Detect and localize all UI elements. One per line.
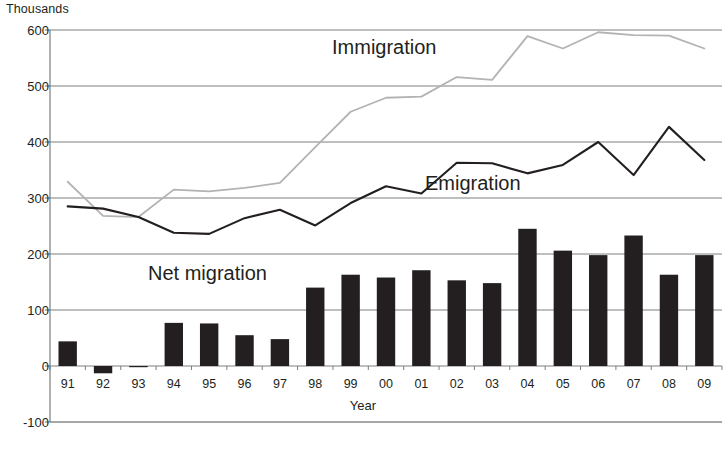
x-tick-label: 06 xyxy=(591,377,605,391)
net-migration-bar xyxy=(518,229,536,366)
x-tick-label: 02 xyxy=(450,377,464,391)
series-label-emigration: Emigration xyxy=(425,172,521,195)
net-migration-bar xyxy=(200,323,218,366)
migration-chart: Thousands 6005004003002001000-100 919293… xyxy=(0,0,726,451)
y-tick-label: 200 xyxy=(5,247,49,262)
net-migration-bar xyxy=(554,251,572,366)
x-tick-label: 91 xyxy=(61,377,75,391)
x-tick-label: 97 xyxy=(273,377,287,391)
x-tick-label: 96 xyxy=(238,377,252,391)
x-tick-label: 00 xyxy=(379,377,393,391)
y-tick-label: 600 xyxy=(5,23,49,38)
net-migration-bar xyxy=(235,335,253,366)
x-tick-label: 04 xyxy=(521,377,535,391)
y-tick-label: -100 xyxy=(5,415,49,430)
net-migration-bar xyxy=(660,275,678,366)
x-axis-title: Year xyxy=(0,398,726,413)
net-migration-bar xyxy=(58,341,76,366)
net-migration-bar xyxy=(165,323,183,366)
y-axis-ticks: 6005004003002001000-100 xyxy=(0,0,49,451)
net-migration-bar xyxy=(589,255,607,366)
net-migration-bars xyxy=(58,229,713,373)
net-migration-bar xyxy=(377,278,395,366)
net-migration-bar xyxy=(412,270,430,366)
migration-lines xyxy=(68,32,705,234)
series-line-emigration xyxy=(68,127,705,234)
net-migration-bar xyxy=(306,288,324,366)
y-tick-label: 0 xyxy=(5,359,49,374)
x-tick-label: 94 xyxy=(167,377,181,391)
net-migration-bar xyxy=(483,283,501,366)
net-migration-bar xyxy=(129,366,147,367)
y-tick-label: 500 xyxy=(5,79,49,94)
x-tick-label: 99 xyxy=(344,377,358,391)
y-tick-label: 100 xyxy=(5,303,49,318)
y-tick-label: 400 xyxy=(5,135,49,150)
x-tick-label: 95 xyxy=(202,377,216,391)
x-tick-label: 05 xyxy=(556,377,570,391)
net-migration-bar xyxy=(271,339,289,366)
net-migration-bar xyxy=(341,275,359,366)
series-line-immigration xyxy=(68,32,705,217)
net-migration-bar xyxy=(448,280,466,366)
y-tick-label: 300 xyxy=(5,191,49,206)
x-tick-label: 09 xyxy=(697,377,711,391)
x-tick-label: 93 xyxy=(131,377,145,391)
x-tick-label: 92 xyxy=(96,377,110,391)
x-tick-label: 01 xyxy=(414,377,428,391)
net-migration-bar xyxy=(624,236,642,366)
series-label-immigration: Immigration xyxy=(332,36,436,59)
series-label-net-migration: Net migration xyxy=(148,262,267,285)
x-tick-label: 03 xyxy=(485,377,499,391)
net-migration-bar xyxy=(695,255,713,366)
net-migration-bar xyxy=(94,366,112,373)
x-tick-label: 07 xyxy=(627,377,641,391)
x-tick-label: 08 xyxy=(662,377,676,391)
x-tick-label: 98 xyxy=(308,377,322,391)
